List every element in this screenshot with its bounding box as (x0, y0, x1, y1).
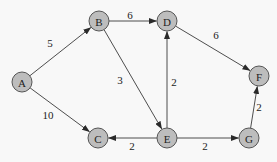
edge-weight-label: 2 (256, 101, 262, 113)
node-label: F (256, 71, 262, 83)
graph-canvas: 5106362222 ABDFCEG (0, 0, 277, 162)
node-g: G (239, 128, 259, 148)
nodes-layer: ABDFCEG (12, 11, 269, 148)
node-label: C (94, 133, 101, 145)
edge-weight-label: 2 (171, 76, 177, 88)
edge-weight-label: 3 (117, 74, 123, 86)
edge-weight-label: 2 (202, 140, 208, 152)
node-label: D (163, 16, 171, 28)
edge-a-b (30, 28, 91, 76)
edge-weight-label: 2 (129, 140, 135, 152)
node-label: G (245, 133, 253, 145)
node-label: B (95, 16, 102, 28)
node-a: A (12, 72, 32, 92)
edge-weight-label: 6 (127, 9, 133, 21)
node-b: B (89, 11, 109, 31)
edge-weight-label: 5 (47, 37, 53, 49)
graph-diagram: 5106362222 ABDFCEG (0, 0, 277, 162)
node-d: D (157, 11, 177, 31)
edge-labels-layer: 5106362222 (43, 9, 262, 152)
node-c: C (88, 128, 108, 148)
edge-a-c (30, 88, 89, 132)
node-f: F (249, 66, 269, 86)
edge-weight-label: 6 (213, 29, 219, 41)
edge-weight-label: 10 (43, 109, 55, 121)
node-label: E (164, 133, 171, 145)
node-label: A (18, 77, 26, 89)
edges-layer (30, 21, 257, 138)
edge-b-e (104, 30, 162, 129)
node-e: E (157, 128, 177, 148)
